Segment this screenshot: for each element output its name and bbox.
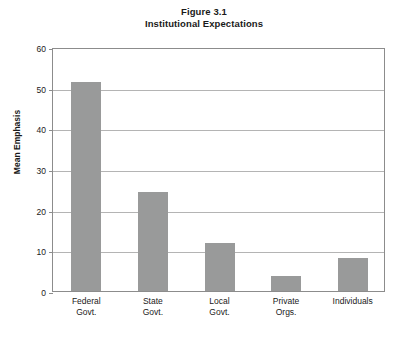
y-axis-tick-label: 10	[12, 248, 53, 257]
bar	[338, 258, 368, 291]
gridline	[53, 90, 384, 91]
x-axis-category-label-line1: Local	[209, 296, 229, 306]
plot-area: 0102030405060 FederalGovt.StateGovt.Loca…	[52, 48, 385, 292]
y-axis-tick-mark	[49, 171, 53, 172]
chart-title: Figure 3.1 Institutional Expectations	[0, 6, 408, 30]
y-axis-tick-label: 20	[12, 207, 53, 216]
bar-chart: Figure 3.1 Institutional Expectations Me…	[0, 0, 408, 338]
bar	[205, 243, 235, 291]
gridline	[53, 130, 384, 131]
bar	[271, 276, 301, 291]
x-axis-category-label-line1: State	[143, 296, 163, 306]
x-axis-category-label: StateGovt.	[120, 291, 187, 318]
x-axis-category-label-line2: Govt.	[186, 307, 253, 318]
y-axis-tick-mark	[49, 212, 53, 213]
bar	[138, 192, 168, 291]
y-axis-tick-label: 40	[12, 126, 53, 135]
x-axis-category-label-line1: Individuals	[333, 296, 373, 306]
x-axis-category-label-line1: Private	[273, 296, 299, 306]
gridline	[53, 171, 384, 172]
chart-title-line2: Institutional Expectations	[0, 18, 408, 30]
x-axis-category-label: PrivateOrgs.	[253, 291, 320, 318]
chart-title-line1: Figure 3.1	[0, 6, 408, 18]
x-axis-category-label: LocalGovt.	[186, 291, 253, 318]
y-axis-tick-label: 50	[12, 85, 53, 94]
y-axis-tick-mark	[49, 130, 53, 131]
x-axis-category-label-line2: Orgs.	[253, 307, 320, 318]
gridline	[53, 212, 384, 213]
y-axis-tick-mark	[49, 90, 53, 91]
bar	[71, 82, 101, 291]
x-axis-category-label-line2: Govt.	[120, 307, 187, 318]
y-axis-tick-label: 60	[12, 45, 53, 54]
x-axis-category-label-line2: Govt.	[53, 307, 120, 318]
x-axis-category-label: FederalGovt.	[53, 291, 120, 318]
y-axis-tick-label: 0	[12, 289, 53, 298]
y-axis-tick-mark	[49, 252, 53, 253]
y-axis-tick-mark	[49, 49, 53, 50]
x-axis-category-label: Individuals	[319, 291, 386, 307]
x-axis-category-label-line1: Federal	[72, 296, 101, 306]
y-axis-tick-label: 30	[12, 167, 53, 176]
